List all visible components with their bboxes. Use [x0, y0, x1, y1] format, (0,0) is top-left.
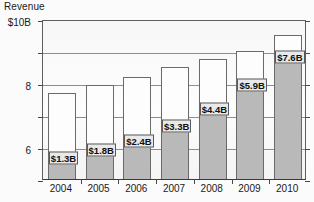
x-tick-5 — [269, 179, 270, 184]
x-tick-3 — [194, 179, 195, 184]
bar-segment-shaded-2007 — [161, 126, 189, 179]
y-tick-right-2 — [305, 149, 310, 150]
bar-2009: $5.9B — [236, 19, 264, 179]
y-tick-0: 0 — [38, 181, 43, 182]
bar-value-label-2010: $7.6B — [275, 51, 304, 64]
bar-2005: $1.8B — [86, 19, 114, 179]
y-tick-label-8: 8 — [25, 81, 31, 92]
bar-value-label-2005: $1.8B — [87, 144, 116, 157]
y-tick-label-6: 6 — [25, 145, 31, 156]
y-tick-right-10 — [305, 21, 310, 22]
bar-segment-shaded-2008 — [199, 109, 227, 179]
x-tick-1 — [118, 179, 119, 184]
x-tick-0 — [81, 179, 82, 184]
y-tick-right-4 — [305, 117, 310, 118]
x-tick-2 — [156, 179, 157, 184]
bar-2010: $7.6B — [274, 19, 302, 179]
revenue-stacked-bar-chart: Revenue 02468$10B$1.3B$1.8B$2.4B$3.3B$4.… — [0, 0, 314, 202]
bar-value-label-2004: $1.3B — [49, 152, 78, 165]
x-axis-label-2008: 2008 — [201, 183, 223, 194]
bar-2007: $3.3B — [161, 19, 189, 179]
y-tick-right-8 — [305, 53, 310, 54]
bar-value-label-2008: $4.4B — [200, 102, 229, 115]
x-axis-label-2007: 2007 — [163, 183, 185, 194]
y-axis-title: Revenue — [4, 1, 45, 12]
y-tick-10: $10B — [38, 21, 43, 22]
y-tick-label-10: $10B — [8, 17, 31, 28]
x-axis-label-2006: 2006 — [125, 183, 147, 194]
x-axis-label-2004: 2004 — [50, 183, 72, 194]
bar-value-label-2009: $5.9B — [237, 78, 266, 91]
y-tick-4: 4 — [38, 117, 43, 118]
y-tick-right-0 — [305, 181, 310, 182]
bar-value-label-2007: $3.3B — [162, 120, 191, 133]
y-tick-right-6 — [305, 85, 310, 86]
bar-2004: $1.3B — [48, 19, 76, 179]
bar-segment-shaded-2010 — [274, 57, 302, 179]
y-tick-8: 8 — [38, 53, 43, 54]
bar-2006: $2.4B — [123, 19, 151, 179]
x-axis-label-2010: 2010 — [276, 183, 298, 194]
y-tick-2: 2 — [38, 149, 43, 150]
x-tick-4 — [232, 179, 233, 184]
plot-area: 02468$10B$1.3B$1.8B$2.4B$3.3B$4.4B$5.9B$… — [42, 20, 306, 180]
y-tick-6: 6 — [38, 85, 43, 86]
bar-segment-shaded-2009 — [236, 85, 264, 179]
x-axis-label-2005: 2005 — [87, 183, 109, 194]
bar-2008: $4.4B — [199, 19, 227, 179]
x-axis-label-2009: 2009 — [238, 183, 260, 194]
bar-value-label-2006: $2.4B — [124, 134, 153, 147]
